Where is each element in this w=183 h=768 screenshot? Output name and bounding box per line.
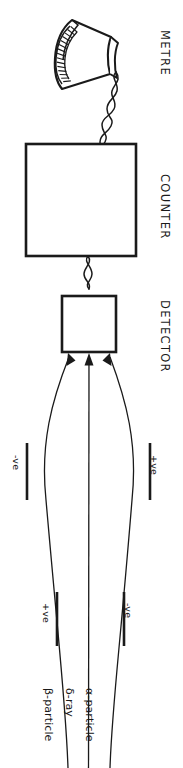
plate-label-lower-right: -ve: [123, 603, 134, 618]
section-label-metre: METRE: [158, 30, 172, 76]
metre-dial: [55, 20, 118, 89]
counter-box: [26, 144, 136, 256]
detector-box: [62, 296, 116, 352]
plate-label-upper-left: -ve: [11, 455, 22, 470]
plate-label-lower-left: +ve: [41, 603, 52, 623]
section-label-detector: DETECTOR: [158, 300, 172, 373]
beam-path-alpha: [110, 357, 134, 768]
section-label-counter: COUNTER: [158, 174, 172, 239]
arrowhead-alpha: [103, 353, 112, 366]
wire-counter-to-detector: [84, 256, 92, 289]
beam-label-delta: δ-ray: [63, 688, 76, 717]
plate-label-upper-right: +ve: [149, 455, 160, 475]
figure-canvas: METRE COUNTER DETECTOR -ve +ve +ve -ve β…: [0, 0, 183, 768]
beam-label-beta: β-particle: [42, 688, 55, 741]
beam-label-alpha: α-particle: [83, 688, 96, 742]
apparatus-diagram: [0, 0, 183, 768]
